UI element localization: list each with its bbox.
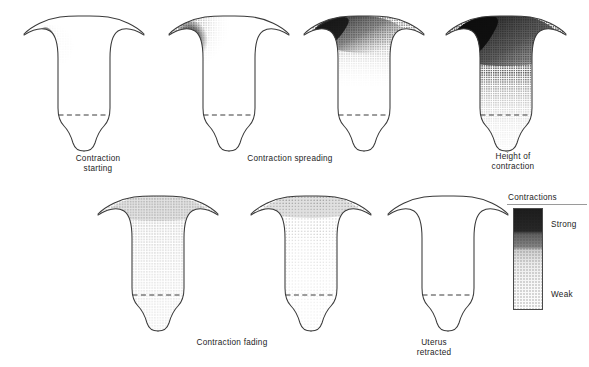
uterus-panel-contraction-fading-late bbox=[245, 190, 377, 332]
uterus-panel-height-of-contraction bbox=[440, 10, 572, 152]
contraction-shading-region bbox=[18, 12, 150, 152]
legend-body: Strong Weak bbox=[505, 208, 589, 312]
caption-contraction-fading: Contraction fading bbox=[197, 338, 268, 348]
uterine-contraction-figure: Contraction starting Contraction spreadi… bbox=[0, 0, 589, 367]
contraction-shading-region bbox=[245, 190, 377, 332]
contraction-shading-region bbox=[440, 10, 572, 152]
caption-contraction-spreading: Contraction spreading bbox=[247, 154, 332, 164]
uterus-panel-contraction-starting bbox=[18, 12, 150, 152]
uterus-right-wall bbox=[448, 209, 508, 331]
contraction-shading-region bbox=[92, 190, 224, 332]
legend-title: Contractions bbox=[508, 193, 589, 202]
contraction-shading-region bbox=[163, 12, 295, 152]
caption-contraction-starting: Contraction starting bbox=[76, 154, 121, 175]
uterus-panel-uterus-retracted bbox=[382, 190, 514, 332]
uterus-panel-contraction-fading bbox=[92, 190, 224, 332]
legend-label-weak: Weak bbox=[551, 290, 573, 299]
contraction-shading-region bbox=[298, 10, 430, 152]
contractions-legend: Contractions Strong Weak bbox=[505, 193, 589, 312]
caption-uterus-retracted: Uterus retracted bbox=[417, 338, 452, 359]
uterus-panel-contraction-spreading bbox=[163, 12, 295, 152]
legend-title-underline bbox=[507, 204, 587, 205]
caption-height-of-contraction: Height of contraction bbox=[492, 152, 535, 173]
legend-intensity-gradient-bar bbox=[513, 208, 543, 310]
uterus-left-wall bbox=[388, 209, 448, 331]
uterus-outline bbox=[388, 196, 508, 214]
legend-label-strong: Strong bbox=[551, 220, 577, 229]
uterus-panel-contraction-spreading-wider bbox=[298, 10, 430, 152]
